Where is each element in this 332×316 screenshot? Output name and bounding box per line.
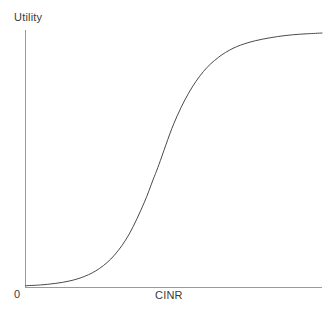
y-axis-label: Utility (14, 11, 42, 23)
chart-figure: Utility CINR 0 (0, 0, 332, 316)
chart-plot-area (0, 0, 332, 316)
origin-label: 0 (14, 288, 20, 300)
x-axis-label: CINR (155, 289, 183, 301)
utility-curve-path (26, 33, 323, 286)
